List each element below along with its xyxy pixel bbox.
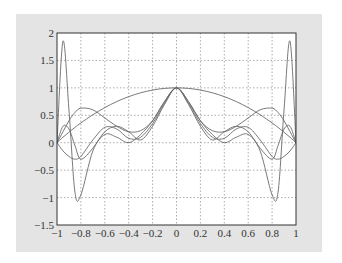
y-tick-label: −0.5 — [34, 164, 54, 176]
x-tick-label: −0.4 — [119, 227, 139, 239]
y-tick-label: −1.5 — [34, 219, 54, 231]
y-tick-label: −1 — [42, 192, 54, 204]
x-tick-label: 0.4 — [217, 227, 231, 239]
x-tick-labels: −1−0.8−0.6−0.4−0.200.20.40.60.81 — [51, 227, 299, 239]
x-tick-label: −0.8 — [71, 227, 91, 239]
y-tick-label: 1 — [49, 82, 55, 94]
x-tick-label: 0.8 — [265, 227, 279, 239]
y-tick-label: 1.5 — [40, 54, 54, 66]
y-tick-label: 0 — [49, 137, 55, 149]
x-tick-label: −0.2 — [143, 227, 163, 239]
chart: −1−0.8−0.6−0.4−0.200.20.40.60.81−1.5−1−0… — [0, 0, 342, 263]
y-tick-label: 0.5 — [40, 109, 54, 121]
x-tick-label: 0.2 — [194, 227, 208, 239]
x-tick-label: −0.6 — [95, 227, 115, 239]
x-tick-label: 0 — [174, 227, 180, 239]
y-tick-labels: −1.5−1−0.500.511.52 — [34, 27, 54, 231]
x-tick-label: 0.6 — [241, 227, 255, 239]
y-tick-label: 2 — [49, 27, 55, 39]
x-tick-label: 1 — [293, 227, 299, 239]
